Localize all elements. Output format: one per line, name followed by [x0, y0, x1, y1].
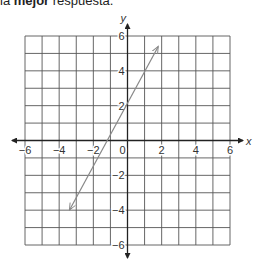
- x-tick-label: 6: [227, 144, 233, 156]
- x-tick-label: 4: [193, 144, 199, 156]
- axes: [12, 24, 243, 258]
- y-tick-label: −2: [112, 169, 125, 181]
- x-tick-label: 0: [119, 144, 125, 156]
- coordinate-plane: xy−6−4−20246642−2−4−6: [0, 0, 256, 264]
- x-tick-label: −6: [19, 144, 32, 156]
- y-axis-label: y: [120, 12, 128, 24]
- x-tick-label: −4: [53, 144, 66, 156]
- x-axis-label: x: [245, 135, 252, 147]
- y-tick-label: −4: [112, 204, 125, 216]
- x-tick-label: 2: [159, 144, 165, 156]
- x-tick-label: −2: [87, 144, 100, 156]
- y-tick-label: −6: [112, 239, 125, 251]
- tick-labels: xy−6−4−20246642−2−4−6: [19, 12, 252, 251]
- y-tick-label: 4: [118, 65, 124, 77]
- y-tick-label: 6: [118, 30, 124, 42]
